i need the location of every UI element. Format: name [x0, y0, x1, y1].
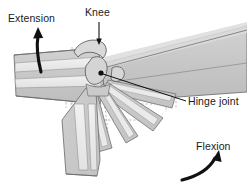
knee-hinge-joint-diagram: Extension Knee Hinge joint Flexion	[0, 0, 247, 189]
diagram-canvas: Extension Knee Hinge joint Flexion	[0, 0, 247, 189]
label-knee: Knee	[85, 6, 110, 18]
flexion-arrow	[182, 150, 222, 180]
label-hinge-joint: Hinge joint	[188, 95, 239, 107]
label-extension: Extension	[8, 12, 55, 24]
label-flexion: Flexion	[196, 140, 231, 152]
hinge-pivot-point	[98, 70, 103, 75]
